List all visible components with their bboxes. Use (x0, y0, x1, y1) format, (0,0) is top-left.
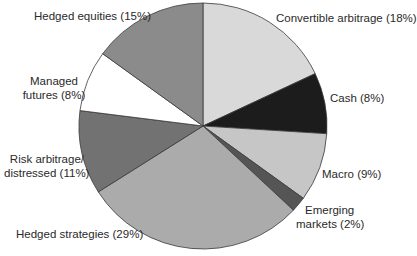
label-managed-futures-line1: Managed (22, 74, 86, 88)
label-convertible-arbitrage: Convertible arbitrage (18%) (276, 11, 417, 25)
label-emerging-markets-line1: Emerging (296, 203, 376, 217)
label-emerging-markets-line2: markets (2%) (296, 217, 376, 231)
label-managed-futures: Managed futures (8%) (22, 74, 86, 102)
label-emerging-markets: Emerging markets (2%) (296, 203, 376, 231)
label-macro: Macro (9%) (322, 167, 381, 181)
label-cash: Cash (8%) (330, 91, 384, 105)
label-risk-arbitrage-line2: distressed (11%) (4, 166, 84, 180)
label-hedged-equities: Hedged equities (15%) (34, 9, 151, 23)
label-risk-arbitrage-line1: Risk arbitrage/ (4, 152, 84, 166)
label-hedged-strategies: Hedged strategies (29%) (16, 227, 143, 241)
label-risk-arbitrage: Risk arbitrage/ distressed (11%) (4, 152, 84, 180)
label-managed-futures-line2: futures (8%) (22, 88, 86, 102)
